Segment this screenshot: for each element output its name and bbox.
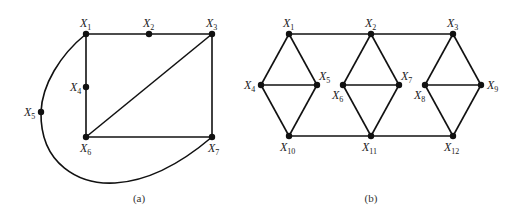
vertex-label-x11: X11	[361, 140, 377, 156]
vertex-label-x3: X3	[205, 16, 217, 32]
edge	[86, 34, 212, 137]
vertex-x6	[340, 82, 346, 88]
vertex-x7	[209, 134, 215, 140]
vertex-label-x5: X5	[318, 69, 330, 85]
vertex-label-x5: X5	[23, 105, 35, 121]
graph-figures: X1X2X3X4X5X6X7(a) X1X2X3X4X5X6X7X8X9X10X…	[0, 0, 521, 219]
vertex-label-x12: X12	[443, 140, 459, 156]
curved-edge	[41, 34, 86, 112]
vertex-label-x2: X2	[142, 16, 154, 32]
vertex-x4	[83, 84, 89, 90]
edge	[289, 34, 317, 85]
vertex-x11	[368, 133, 374, 139]
vertex-label-x6: X6	[331, 88, 343, 104]
vertex-label-x4: X4	[69, 80, 81, 96]
vertex-label-x7: X7	[207, 141, 219, 157]
vertex-x8	[422, 82, 428, 88]
figure-a-graph: X1X2X3X4X5X6X7(a)	[23, 16, 219, 205]
caption-a: (a)	[133, 192, 146, 205]
vertex-label-x9: X9	[486, 78, 498, 94]
vertex-x10	[286, 133, 292, 139]
vertex-x9	[478, 82, 484, 88]
vertex-label-x10: X10	[279, 140, 295, 156]
vertex-label-x1: X1	[79, 16, 91, 32]
edge	[289, 85, 317, 136]
curved-edge	[41, 112, 212, 183]
figure-b-graph: X1X2X3X4X5X6X7X8X9X10X11X12(b)	[243, 16, 498, 205]
vertex-label-x1: X1	[282, 16, 294, 32]
edge	[343, 34, 371, 85]
edge	[453, 34, 481, 85]
vertex-x4	[258, 82, 264, 88]
vertex-label-x4: X4	[243, 78, 255, 94]
vertex-label-x6: X6	[79, 141, 91, 157]
edge	[343, 85, 371, 136]
vertex-label-x8: X8	[413, 88, 425, 104]
edge	[425, 34, 453, 85]
vertex-x6	[83, 134, 89, 140]
vertex-label-x2: X2	[364, 16, 376, 32]
vertex-label-x7: X7	[400, 69, 412, 85]
edge	[425, 85, 453, 136]
vertex-x12	[450, 133, 456, 139]
vertex-label-x3: X3	[446, 16, 458, 32]
caption-b: (b)	[365, 192, 378, 205]
edge	[371, 85, 399, 136]
edge	[261, 34, 289, 85]
edge	[453, 85, 481, 136]
edge	[371, 34, 399, 85]
vertex-x5	[38, 109, 44, 115]
edge	[261, 85, 289, 136]
